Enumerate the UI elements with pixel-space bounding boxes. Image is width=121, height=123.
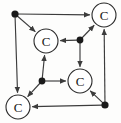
graph-node-circle: C bbox=[92, 3, 116, 27]
graph-diagram: CCCC bbox=[0, 0, 121, 123]
graph-node-dot bbox=[11, 10, 18, 17]
graph-node-dot bbox=[101, 101, 108, 108]
graph-node-dot bbox=[77, 37, 84, 44]
node-label: C bbox=[14, 100, 23, 115]
graph-edge bbox=[82, 25, 95, 38]
node-dot bbox=[11, 10, 18, 17]
graph-edge bbox=[90, 91, 103, 103]
graph-edge bbox=[15, 17, 17, 93]
graph-edge bbox=[32, 105, 102, 107]
graph-edge bbox=[104, 29, 105, 102]
graph-node-circle: C bbox=[34, 29, 58, 53]
node-label: C bbox=[42, 34, 51, 49]
node-label: C bbox=[76, 74, 85, 89]
edges-layer bbox=[15, 14, 105, 107]
graph-edge bbox=[18, 14, 90, 15]
graph-node-dot bbox=[39, 78, 46, 85]
node-dot bbox=[39, 78, 46, 85]
graph-edge bbox=[42, 55, 44, 78]
graph-edge bbox=[28, 83, 41, 97]
graph-node-circle: C bbox=[68, 69, 92, 93]
node-label: C bbox=[100, 8, 109, 23]
node-dot bbox=[101, 101, 108, 108]
node-dot bbox=[77, 37, 84, 44]
graph-node-circle: C bbox=[6, 95, 30, 119]
graph-canvas: CCCC bbox=[0, 0, 121, 123]
graph-edge bbox=[17, 16, 35, 32]
graph-edge bbox=[60, 40, 77, 41]
